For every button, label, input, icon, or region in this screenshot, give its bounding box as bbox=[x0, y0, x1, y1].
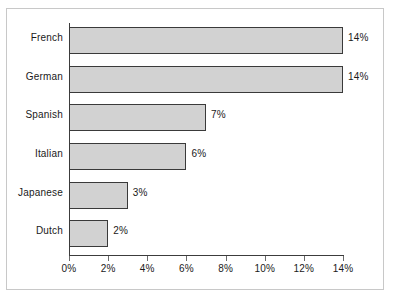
category-label: Spanish bbox=[0, 109, 63, 120]
bar bbox=[69, 66, 343, 93]
x-tick-mark bbox=[304, 256, 305, 261]
x-tick-mark bbox=[265, 256, 266, 261]
bar-value-label: 3% bbox=[133, 187, 148, 198]
category-label: Italian bbox=[0, 148, 63, 159]
bar-value-label: 2% bbox=[113, 225, 128, 236]
bar-row: French14% bbox=[69, 23, 343, 62]
x-tick-mark bbox=[108, 256, 109, 261]
plot-area: 0%2%4%6%8%10%12%14% French14%German14%Sp… bbox=[69, 23, 343, 255]
bar bbox=[69, 220, 108, 247]
category-label: German bbox=[0, 71, 63, 82]
x-tick-label: 14% bbox=[313, 263, 373, 274]
bar-row: Italian6% bbox=[69, 139, 343, 178]
bar-value-label: 14% bbox=[348, 71, 369, 82]
bar bbox=[69, 182, 128, 209]
bar bbox=[69, 104, 206, 131]
x-tick-mark bbox=[343, 256, 344, 261]
bar-value-label: 14% bbox=[348, 32, 369, 43]
x-tick-mark bbox=[186, 256, 187, 261]
bar-row: Spanish7% bbox=[69, 100, 343, 139]
bar-row: Dutch2% bbox=[69, 216, 343, 255]
chart-frame: 0%2%4%6%8%10%12%14% French14%German14%Sp… bbox=[6, 8, 384, 290]
x-tick-mark bbox=[147, 256, 148, 261]
category-label: French bbox=[0, 32, 63, 43]
x-tick-mark bbox=[226, 256, 227, 261]
bar-row: German14% bbox=[69, 62, 343, 101]
bar-value-label: 7% bbox=[211, 109, 226, 120]
category-label: Dutch bbox=[0, 225, 63, 236]
bar bbox=[69, 27, 343, 54]
bar-value-label: 6% bbox=[191, 148, 206, 159]
category-label: Japanese bbox=[0, 187, 63, 198]
bar-row: Japanese3% bbox=[69, 178, 343, 217]
x-axis-line bbox=[69, 255, 344, 256]
bar bbox=[69, 143, 186, 170]
x-tick-mark bbox=[69, 256, 70, 261]
